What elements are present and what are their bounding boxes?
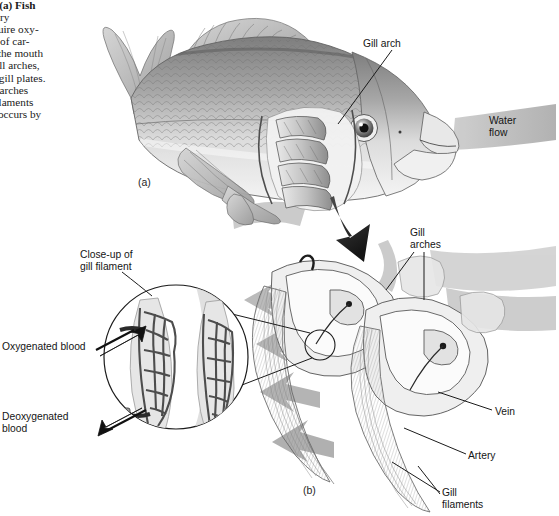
gill-arch-2 <box>351 298 488 512</box>
leader-closeup <box>122 272 152 296</box>
panel-label-a: (a) <box>138 176 151 188</box>
gill-filaments-label: Gill filaments <box>442 487 483 510</box>
gill-arches-label: Gill arches <box>410 227 441 250</box>
gill-filament-closeup <box>104 285 248 452</box>
leader-artery <box>404 428 466 454</box>
panel-label-b: (b) <box>303 484 316 496</box>
transition-arrow <box>330 196 370 262</box>
deoxygenated-blood-label: Deoxygenated blood <box>2 411 68 434</box>
water-flow-label: Water flow <box>489 115 516 138</box>
close-up-label: Close-up of gill filament <box>80 249 133 272</box>
gill-arch-label: Gill arch <box>363 38 401 50</box>
oxygenated-blood-label: Oxygenated blood <box>2 341 86 353</box>
gill-arches-detail <box>252 256 504 512</box>
artery-label: Artery <box>468 450 495 462</box>
vein-label: Vein <box>495 406 515 418</box>
figure-canvas: Gills (a) Fish piratory o acquire oxy- e… <box>0 0 559 516</box>
fish-illustration <box>103 18 459 224</box>
